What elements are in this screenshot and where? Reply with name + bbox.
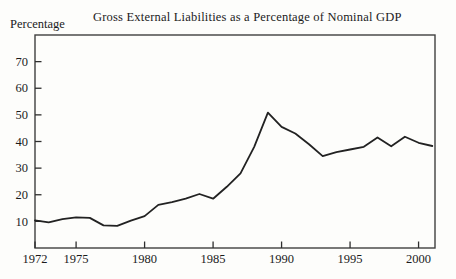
x-tick-label: 2000: [406, 252, 431, 266]
x-axis: 1972197519801985199019952000: [23, 242, 432, 267]
y-tick-label: 30: [16, 161, 29, 175]
y-tick-label: 10: [16, 215, 29, 229]
x-tick-label: 1995: [338, 252, 363, 266]
x-tick-label: 1972: [23, 252, 48, 266]
y-tick-label: 50: [16, 108, 29, 122]
x-tick-label: 1990: [269, 252, 294, 266]
y-tick-label: 70: [16, 55, 29, 69]
y-tick-label: 60: [16, 81, 29, 95]
x-tick-label: 1985: [201, 252, 226, 266]
y-tick-label: 20: [16, 188, 29, 202]
x-tick-label: 1975: [64, 252, 89, 266]
x-tick-label: 1980: [132, 252, 157, 266]
y-axis: 10203040506070: [16, 55, 42, 229]
y-tick-label: 40: [16, 135, 29, 149]
data-line: [35, 113, 432, 226]
line-chart-canvas: 10203040506070 1972197519801985199019952…: [0, 0, 456, 279]
chart-figure: Percentage Gross External Liabilities as…: [0, 0, 456, 279]
plot-frame: [35, 35, 435, 248]
